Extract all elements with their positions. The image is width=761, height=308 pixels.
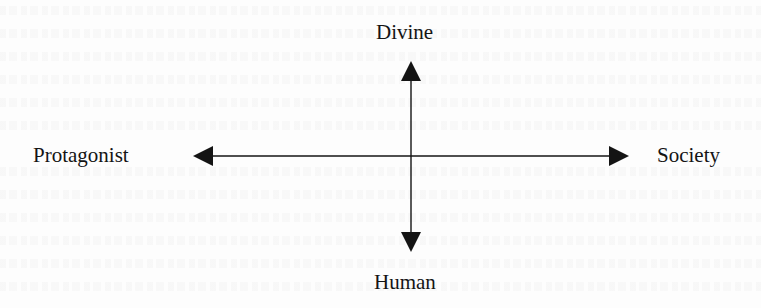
- arrow-down-icon: [401, 232, 421, 252]
- arrow-up-icon: [401, 61, 421, 81]
- label-divine: Divine: [376, 22, 433, 43]
- label-human: Human: [374, 272, 436, 293]
- label-protagonist: Protagonist: [33, 145, 129, 166]
- arrow-right-icon: [609, 146, 629, 166]
- label-society: Society: [657, 145, 720, 166]
- arrow-left-icon: [193, 146, 213, 166]
